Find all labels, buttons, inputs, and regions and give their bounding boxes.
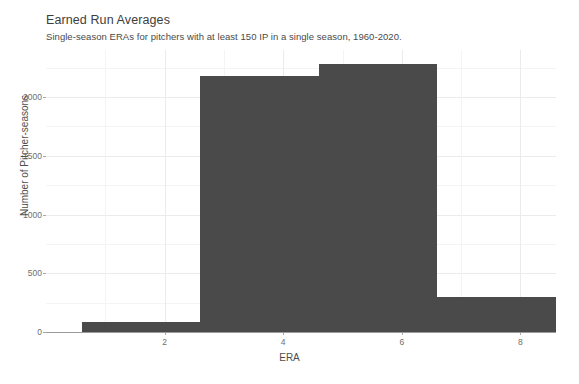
y-tick-mark	[43, 97, 46, 98]
x-tick-label: 6	[399, 337, 404, 347]
x-tick-label: 8	[518, 337, 523, 347]
gridline-vertical	[520, 50, 521, 332]
histogram-bar	[82, 322, 201, 332]
histogram-bar	[200, 76, 319, 332]
gridline-vertical	[165, 50, 166, 332]
chart-canvas: Earned Run Averages Single-season ERAs f…	[0, 0, 579, 384]
x-axis-tick-labels: 2468	[46, 337, 556, 351]
gridline-horizontal-minor	[46, 68, 556, 69]
histogram-bar	[319, 64, 438, 332]
y-axis-title: Number of Pitcher-seasons	[19, 46, 30, 266]
y-tick-label: 500	[28, 268, 42, 278]
y-tick-mark	[43, 215, 46, 216]
chart-title: Earned Run Averages	[46, 13, 170, 27]
x-axis-line	[46, 332, 556, 333]
plot-area	[46, 50, 556, 332]
y-tick-mark	[43, 273, 46, 274]
y-axis-ticks	[42, 50, 46, 332]
x-tick-label: 2	[162, 337, 167, 347]
gridline-vertical-minor	[461, 50, 462, 332]
y-tick-label: 0	[37, 327, 42, 337]
histogram-bar	[437, 297, 556, 332]
gridline-vertical-minor	[105, 50, 106, 332]
x-tick-label: 4	[281, 337, 286, 347]
y-tick-mark	[43, 156, 46, 157]
x-axis-title: ERA	[0, 352, 579, 363]
chart-subtitle: Single-season ERAs for pitchers with at …	[46, 31, 402, 42]
